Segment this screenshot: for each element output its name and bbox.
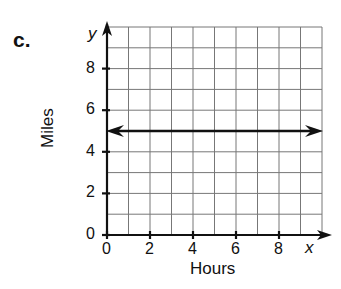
x-tick-label: 8: [274, 240, 283, 258]
y-tick-label: 6: [86, 100, 95, 118]
x-tick-label: 4: [188, 240, 197, 258]
x-tick-label: 6: [231, 240, 240, 258]
x-axis-title: Hours: [190, 259, 235, 279]
y-tick-label: 4: [86, 142, 95, 160]
x-tick-label: 0: [102, 240, 111, 258]
y-axis-letter: y: [88, 24, 97, 44]
y-axis-title: Miles: [38, 88, 58, 148]
y-tick-label: 0: [86, 225, 95, 243]
x-axis-letter: x: [305, 238, 314, 258]
x-tick-label: 2: [145, 240, 154, 258]
y-tick-label: 2: [86, 183, 95, 201]
y-tick-label: 8: [86, 59, 95, 77]
